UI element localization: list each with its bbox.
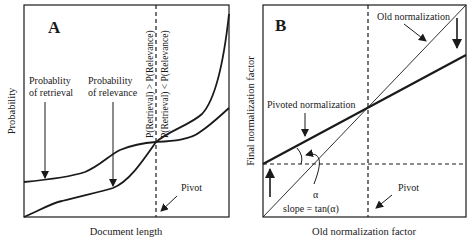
old-normalization-arrow xyxy=(404,24,426,41)
retrieval-less-label: P(Retrieval) < P(Relevance) xyxy=(160,30,171,138)
y-axis-label-b: Final normalization factor xyxy=(245,56,256,166)
panel-a-letter: A xyxy=(48,18,61,37)
pivot-arrow-b xyxy=(376,195,392,208)
retrieval-label-line2: of retrieval xyxy=(29,87,73,98)
retrieval-greater-label: P(Retrieval) > P(Relevance) xyxy=(145,30,156,138)
pivot-arrow-a xyxy=(161,196,177,211)
y-axis-label-a: Probability xyxy=(6,87,17,134)
relevance-label-line2: of relevance xyxy=(88,87,138,98)
x-axis-label-b: Old normalization factor xyxy=(312,226,416,237)
angle-arc xyxy=(297,148,302,164)
slope-label: slope = tan(α) xyxy=(283,203,339,215)
pivot-label-b: Pivot xyxy=(398,182,419,193)
panel-b-letter: B xyxy=(275,16,286,35)
retrieval-label-line1: Probablity xyxy=(29,75,71,86)
panel-a: A Probablity of retrieval Probability of… xyxy=(6,5,229,237)
angle-pointer-arrow xyxy=(306,154,319,184)
x-axis-label-a: Document length xyxy=(90,226,163,237)
pivoted-normalization-label: Pivoted normalization xyxy=(267,99,356,110)
old-normalization-line xyxy=(263,5,466,217)
panel-b: B Old normalization Pivoted normalizatio… xyxy=(245,5,466,237)
relevance-label-line1: Probability xyxy=(88,75,132,86)
old-normalization-label: Old normalization xyxy=(377,11,450,22)
pivot-label-a: Pivot xyxy=(181,182,202,193)
alpha-label: α xyxy=(313,189,319,200)
figure: A Probablity of retrieval Probability of… xyxy=(0,0,472,243)
retrieval-curve xyxy=(24,108,229,182)
